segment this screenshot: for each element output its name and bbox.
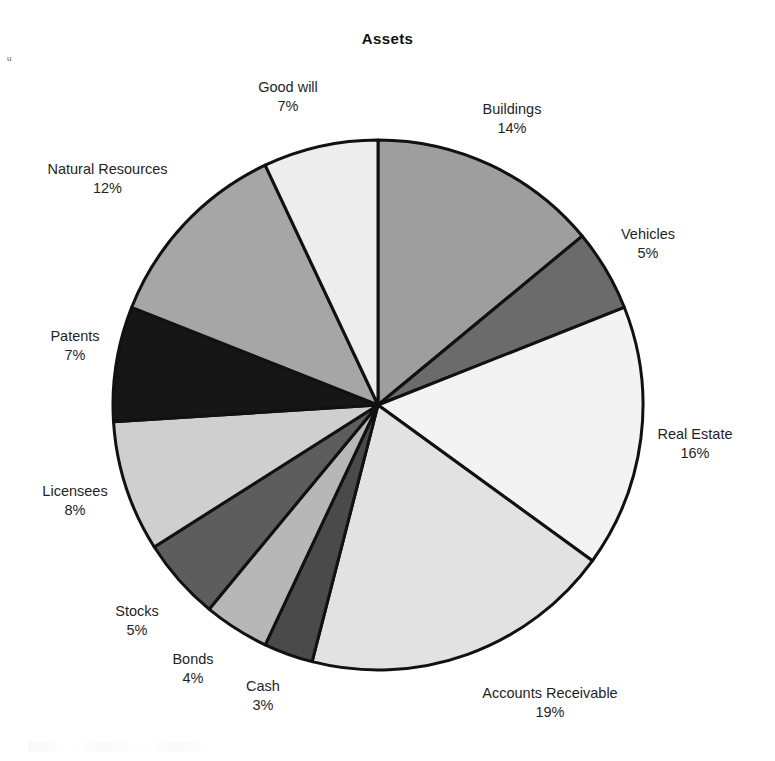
slice-pct-licensees: 8% <box>0 501 150 520</box>
slice-pct-accounts-receivable: 19% <box>440 703 660 722</box>
scan-artifact-smudge <box>28 742 208 752</box>
slice-pct-cash: 3% <box>203 696 323 715</box>
slice-label-bonds: Bonds 4% <box>128 650 258 688</box>
slice-label-good-will: Good will 7% <box>213 78 363 116</box>
slice-pct-good-will: 7% <box>213 97 363 116</box>
slice-pct-bonds: 4% <box>128 669 258 688</box>
slice-pct-real-estate: 16% <box>620 444 770 463</box>
slice-name-good-will: Good will <box>213 78 363 97</box>
slice-pct-natural-resources: 12% <box>10 179 205 198</box>
pie-slice-group <box>113 140 643 670</box>
pie-chart <box>0 0 775 761</box>
slice-label-real-estate: Real Estate 16% <box>620 425 770 463</box>
slice-name-licensees: Licensees <box>0 482 150 501</box>
slice-label-patents: Patents 7% <box>0 327 150 365</box>
slice-name-natural-resources: Natural Resources <box>10 160 205 179</box>
slice-name-stocks: Stocks <box>62 602 212 621</box>
slice-name-real-estate: Real Estate <box>620 425 770 444</box>
slice-name-patents: Patents <box>0 327 150 346</box>
pie-chart-svg <box>0 0 775 761</box>
slice-label-natural-resources: Natural Resources 12% <box>10 160 205 198</box>
slice-pct-vehicles: 5% <box>573 244 723 263</box>
slice-label-stocks: Stocks 5% <box>62 602 212 640</box>
slice-name-accounts-receivable: Accounts Receivable <box>440 684 660 703</box>
slice-pct-patents: 7% <box>0 346 150 365</box>
slice-pct-buildings: 14% <box>437 119 587 138</box>
slice-label-accounts-receivable: Accounts Receivable 19% <box>440 684 660 722</box>
slice-name-buildings: Buildings <box>437 100 587 119</box>
slice-name-bonds: Bonds <box>128 650 258 669</box>
slice-name-vehicles: Vehicles <box>573 225 723 244</box>
slice-pct-stocks: 5% <box>62 621 212 640</box>
slice-label-buildings: Buildings 14% <box>437 100 587 138</box>
slice-label-licensees: Licensees 8% <box>0 482 150 520</box>
slice-label-vehicles: Vehicles 5% <box>573 225 723 263</box>
